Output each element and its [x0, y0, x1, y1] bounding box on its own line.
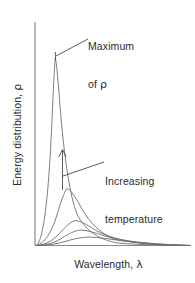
increasing-temperature-leader-line — [63, 162, 104, 176]
increasing-pointer-line — [63, 162, 104, 176]
maximum-annotation-line1: Maximum — [88, 40, 134, 53]
rho-symbol-maximum: ρ — [100, 78, 107, 91]
maximum-annotation: Maximum of ρ — [88, 15, 134, 116]
maximum-annotation-line2: of ρ — [88, 78, 134, 92]
x-axis-label-text: Wavelength, — [74, 258, 136, 270]
increasing-annotation-line1: Increasing — [105, 175, 163, 188]
maximum-annotation-of: of — [88, 78, 100, 90]
x-axis-label: Wavelength, λ — [0, 258, 195, 272]
increasing-temperature-arrow — [59, 150, 66, 191]
increasing-temperature-annotation: Increasing temperature — [105, 150, 163, 250]
blackbody-radiation-figure: Maximum of ρ Increasing temperature Wave… — [0, 0, 195, 283]
y-axis-label: Energy distribution, ρ — [11, 45, 25, 225]
lambda-symbol: λ — [136, 258, 143, 271]
y-axis-label-text: Energy distribution, — [11, 91, 23, 186]
increasing-annotation-line2: temperature — [105, 213, 163, 226]
maximum-leader-line — [55, 39, 88, 61]
rho-symbol-axis: ρ — [11, 84, 24, 91]
maximum-pointer-line — [56, 39, 88, 56]
